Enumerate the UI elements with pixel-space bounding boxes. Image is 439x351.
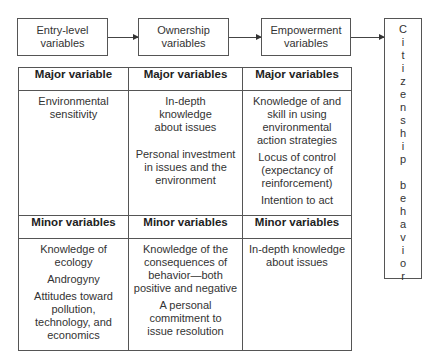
ownership-label: Ownership variables (152, 24, 216, 50)
arrow-icon (351, 37, 384, 38)
entry-level-box: Entry-level variables (17, 18, 108, 56)
variables-table: Major variable Major variables Major var… (18, 67, 352, 351)
minor-header-empowerment: Minor variables (243, 216, 352, 239)
variable-item: Intention to act (247, 194, 347, 207)
major-entry-cell: Environmental sensitivity (19, 91, 129, 216)
letter: i (385, 62, 421, 75)
letter: s (385, 114, 421, 127)
variable-item: In-depth knowledge about issues (247, 243, 347, 269)
major-header-ownership: Major variables (129, 68, 243, 91)
variable-item: Androgyny (23, 273, 124, 286)
letter: i (385, 244, 421, 257)
variable-item: Personal investment in issues and the en… (133, 148, 238, 187)
letter: a (385, 218, 421, 231)
letter: p (385, 153, 421, 166)
major-header-empowerment: Major variables (243, 68, 352, 91)
major-ownership-cell: In-depth knowledge about issues Personal… (129, 91, 243, 216)
empowerment-box: Empowerment variables (261, 18, 351, 56)
letter: r (385, 270, 421, 283)
variable-item: Environmental sensitivity (23, 95, 124, 121)
letter: v (385, 231, 421, 244)
letter: i (385, 140, 421, 153)
major-empowerment-cell: Knowledge of and skill in using environm… (243, 91, 352, 216)
letter: h (385, 127, 421, 140)
variable-item: Locus of control (expectancy of reinforc… (247, 151, 347, 190)
arrow-icon (229, 37, 261, 38)
variable-item: Knowledge of and skill in using environm… (247, 95, 347, 147)
letter: n (385, 101, 421, 114)
entry-level-label: Entry-level variables (33, 24, 93, 50)
variable-item: Knowledge of ecology (23, 243, 124, 269)
citizenship-behavior-box: C i t i z e n s h i p b e h a v i o r (384, 18, 422, 279)
minor-empowerment-cell: In-depth knowledge about issues (243, 239, 352, 351)
arrow-icon (108, 37, 138, 38)
variable-item: In-depth knowledge about issues (133, 95, 238, 134)
letter: z (385, 75, 421, 88)
letter: b (385, 179, 421, 192)
minor-entry-cell: Knowledge of ecology Androgyny Attitudes… (19, 239, 129, 351)
letter: e (385, 88, 421, 101)
variable-item: Attitudes toward pollution, technology, … (23, 290, 124, 342)
variable-item: A personal commitment to issue resolutio… (133, 299, 238, 338)
letter: o (385, 257, 421, 270)
ownership-box: Ownership variables (138, 18, 229, 56)
empowerment-label: Empowerment variables (266, 24, 346, 50)
minor-header-entry: Minor variables (19, 216, 129, 239)
letter: i (385, 36, 421, 49)
letter: C (385, 23, 421, 36)
letter: e (385, 192, 421, 205)
letter (385, 166, 421, 179)
minor-ownership-cell: Knowledge of the consequences of behavio… (129, 239, 243, 351)
letter: h (385, 205, 421, 218)
major-header-entry: Major variable (19, 68, 129, 91)
minor-header-ownership: Minor variables (129, 216, 243, 239)
letter: t (385, 49, 421, 62)
variable-item: Knowledge of the consequences of behavio… (133, 243, 238, 295)
